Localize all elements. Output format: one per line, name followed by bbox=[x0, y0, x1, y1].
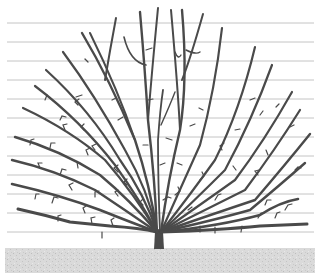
fan-trained-tree-illustration bbox=[0, 0, 320, 273]
ground-band bbox=[5, 248, 315, 273]
